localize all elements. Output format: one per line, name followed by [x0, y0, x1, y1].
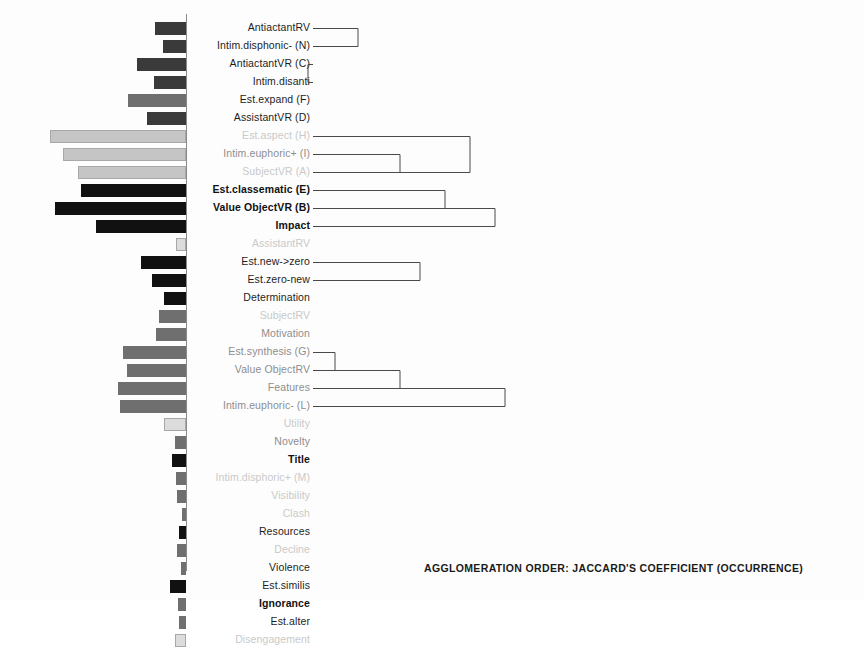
category-label: Intim.euphoric- (L): [120, 399, 310, 411]
category-label: Resources: [120, 525, 310, 537]
category-label: Visibility: [120, 489, 310, 501]
category-label: Est.similis: [120, 579, 310, 591]
category-label: Intim.disphoric+ (M): [120, 471, 310, 483]
category-label: Value ObjectVR (B): [120, 201, 310, 213]
category-label: AntiactantVR (C): [120, 57, 310, 69]
category-label: Ignorance: [120, 597, 310, 609]
category-label: Determination: [120, 291, 310, 303]
category-label: Impact: [120, 219, 310, 231]
category-label: Est.synthesis (G): [120, 345, 310, 357]
category-label: AssistantVR (D): [120, 111, 310, 123]
category-label: Utility: [120, 417, 310, 429]
category-label: SubjectRV: [120, 309, 310, 321]
category-label: Est.aspect (H): [120, 129, 310, 141]
category-label: SubjectVR (A): [120, 165, 310, 177]
chart-caption: AGGLOMERATION ORDER: JACCARD'S COEFFICIE…: [424, 562, 803, 574]
category-label: Disengagement: [120, 633, 310, 645]
category-label: Est.expand (F): [120, 93, 310, 105]
category-label: Intim.euphoric+ (I): [120, 147, 310, 159]
category-label: Motivation: [120, 327, 310, 339]
category-label: Est.classematic (E): [120, 183, 310, 195]
category-label: AntiactantRV: [120, 21, 310, 33]
category-label: Title: [120, 453, 310, 465]
category-label: Intim.disanti: [120, 75, 310, 87]
category-label: AssistantRV: [120, 237, 310, 249]
category-label: Features: [120, 381, 310, 393]
category-label: Est.new->zero: [120, 255, 310, 267]
category-label: Value ObjectRV: [120, 363, 310, 375]
category-label: Est.alter: [120, 615, 310, 627]
category-label: Intim.disphonic- (N): [120, 39, 310, 51]
category-label: Decline: [120, 543, 310, 555]
category-label: Clash: [120, 507, 310, 519]
category-label: Novelty: [120, 435, 310, 447]
category-label: Violence: [120, 561, 310, 573]
category-label: Est.zero-new: [120, 273, 310, 285]
